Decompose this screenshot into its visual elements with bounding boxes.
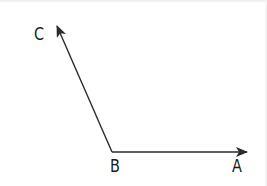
point-label-c: C	[34, 26, 44, 43]
point-label-a: A	[232, 158, 242, 175]
diagram-frame: C B A	[0, 0, 267, 186]
ray-bc	[57, 26, 112, 152]
point-label-b: B	[110, 158, 120, 175]
